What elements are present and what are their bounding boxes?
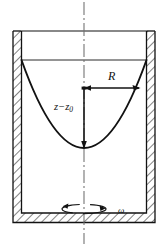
height-arrow-origin-marker xyxy=(82,87,87,90)
height-difference-subscript: 0 xyxy=(69,105,73,114)
vessel-left-wall-hatch xyxy=(13,31,22,213)
angular-velocity-label: ω xyxy=(118,206,124,215)
height-difference-label: z−z0 xyxy=(54,102,73,113)
radius-dimension-arrow xyxy=(84,85,141,91)
height-difference-main: z−z xyxy=(54,101,69,112)
rotation-arrow-head-left xyxy=(63,204,69,209)
vessel-right-wall-hatch xyxy=(147,31,156,213)
figure-line-drawing xyxy=(0,0,168,246)
rotating-vessel-figure: R z−z0 ω xyxy=(0,0,168,246)
radius-label: R xyxy=(108,70,115,82)
height-dimension-arrow xyxy=(81,87,87,149)
